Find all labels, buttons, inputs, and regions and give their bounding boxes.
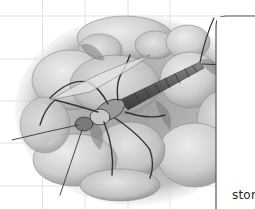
stonefly-nymph-illustration — [0, 0, 255, 209]
illustration-figure: ston — [0, 0, 255, 209]
callout-label: ston — [232, 188, 255, 202]
